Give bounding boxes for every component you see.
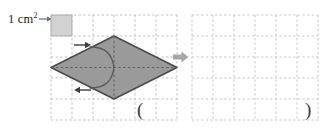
figure-root: 1 cm2 [0,0,327,128]
unit-area-value: 1 cm [8,12,33,26]
lower-cut-arrow [74,87,91,93]
unit-cell-swatch [51,15,72,36]
upper-cut-arrow [74,42,91,48]
answer-close-paren: ) [305,97,311,123]
answer-open-paren: ( [137,97,143,123]
answer-blank[interactable]: ( ) [100,97,315,123]
unit-area-label: 1 cm2 [8,12,38,26]
unit-area-exponent: 2 [33,11,37,20]
transform-arrow [173,51,189,63]
unit-area-legend: 1 cm2 [8,12,53,26]
